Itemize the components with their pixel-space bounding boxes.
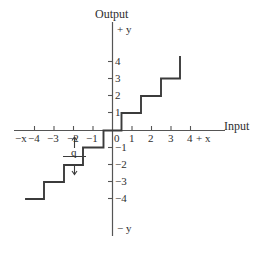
y-tick-label-3: 3 [115, 73, 121, 84]
chart-title: Output [95, 8, 128, 20]
x-tick-label-minus-1: −1 [86, 133, 98, 144]
q-step-size-label: q [71, 147, 77, 158]
y-tick-label-minus-3: −3 [115, 176, 127, 187]
x-tick-label-3: 3 [168, 133, 174, 144]
x-tick-label-minus-2: −2 [67, 133, 79, 144]
quantizer-transfer-function-chart: Output + y − y −x + x Input −4 −3 −2 −1 … [0, 0, 265, 254]
x-axis-negative-label: −x [15, 133, 27, 144]
x-tick-label-minus-3: −3 [47, 133, 59, 144]
x-tick-label-4: 4 [187, 133, 193, 144]
y-axis-positive-label: + y [117, 24, 131, 35]
quantizer-staircase-curve [26, 57, 180, 199]
y-axis-negative-label: − y [117, 223, 131, 234]
y-tick-label-minus-4: −4 [115, 193, 127, 204]
x-axis-name-label: Input [224, 120, 249, 132]
y-tick-label-minus-2: −2 [115, 159, 127, 170]
x-tick-label-1: 1 [129, 133, 135, 144]
y-tick-label-2: 2 [115, 90, 121, 101]
x-tick-label-2: 2 [148, 133, 154, 144]
x-axis-positive-label: + x [196, 133, 210, 144]
y-tick-label-4: 4 [115, 56, 121, 67]
y-tick-label-1: 1 [115, 107, 121, 118]
x-tick-label-minus-4: −4 [28, 133, 40, 144]
y-tick-label-minus-1: −1 [115, 142, 127, 153]
